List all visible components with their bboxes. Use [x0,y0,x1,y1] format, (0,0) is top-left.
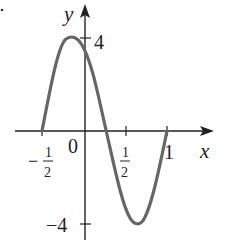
x-tick-label-one: 1 [164,141,174,163]
y-tick-label-four: 4 [94,31,104,53]
stray-dot [1,9,4,12]
fraction-numerator: 1 [45,145,52,160]
fraction-numerator: 1 [122,145,129,160]
x-tick-label-neg-half: − 1 2 [28,145,53,180]
chart-canvas: y x 4 −4 0 1 − 1 2 1 2 [0,0,226,243]
x-tick-label-half: 1 2 [120,145,130,180]
fraction-denominator: 2 [44,165,51,180]
minus-sign: − [28,151,38,171]
y-tick-label-neg-four: −4 [46,214,67,236]
x-tick-label-zero: 0 [68,135,78,157]
x-axis-label: x [199,139,210,163]
fraction-denominator: 2 [121,165,128,180]
y-axis-label: y [62,2,74,26]
